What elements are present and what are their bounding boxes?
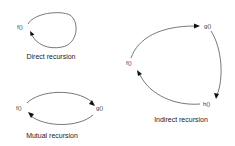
caption-mutual-recursion: Mutual recursion [26,132,78,139]
node-h-indirect: h() [203,101,210,107]
caption-indirect-recursion: Indirect recursion [154,116,208,123]
node-f-mutual: f() [16,105,22,111]
edge-g-to-f [31,115,93,125]
arrowhead-icon [30,31,35,36]
arrowhead-icon [214,93,219,99]
panel-mutual-recursion: f() g() Mutual recursion [16,92,103,139]
node-g-mutual: g() [96,105,103,111]
edge-f-to-g-indirect [131,26,195,58]
arrowhead-icon [194,24,200,29]
caption-direct-recursion: Direct recursion [26,53,75,60]
arrowhead-icon [89,100,95,106]
node-f-direct: f() [17,24,23,30]
node-f-indirect: f() [126,60,132,66]
edge-f-to-g [27,92,92,103]
panel-indirect-recursion: f() g() h() Indirect recursion [126,23,221,123]
edge-h-to-f-indirect [140,75,200,104]
arrowhead-icon [137,70,142,76]
panel-direct-recursion: f() Direct recursion [17,13,76,60]
recursion-diagram: f() Direct recursion f() g() Mutual recu… [0,0,235,146]
edge-g-to-h-indirect [211,31,221,95]
edge-f-to-f-loop [28,13,76,48]
node-g-indirect: g() [204,23,211,29]
